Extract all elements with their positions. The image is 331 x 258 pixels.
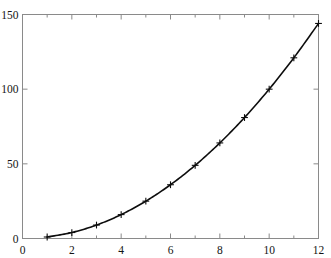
x-tick-label: 4 [118, 244, 124, 256]
y-tick-label: 0 [13, 233, 19, 245]
figure-background [0, 0, 331, 258]
y-tick-label: 100 [1, 83, 19, 95]
x-tick-label: 2 [69, 244, 75, 256]
x-tick-label: 6 [168, 244, 174, 256]
x-tick-label: 8 [217, 244, 223, 256]
x-tick-label: 10 [263, 244, 275, 256]
chart-figure: 050100150 024681012 [0, 0, 331, 258]
y-tick-label: 50 [7, 158, 19, 170]
x-tick-label: 12 [313, 244, 325, 256]
y-tick-label: 150 [1, 9, 19, 21]
chart-plot-area: 050100150 024681012 [0, 0, 331, 258]
x-tick-label: 0 [20, 244, 26, 256]
